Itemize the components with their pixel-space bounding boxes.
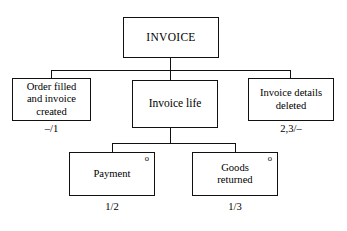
caption-invoice-deleted: 2,3/– — [248, 124, 334, 135]
node-invoice-life-label: Invoice life — [146, 97, 205, 111]
structure-diagram: INVOICE Order filled and invoice created… — [0, 0, 347, 231]
node-goods-returned[interactable]: o Goods returned — [192, 152, 278, 196]
node-payment-label: Payment — [90, 168, 133, 181]
node-invoice[interactable]: INVOICE — [123, 17, 219, 58]
node-goods-returned-label: Goods returned — [214, 162, 255, 187]
optional-marker-icon: o — [145, 154, 149, 163]
caption-order-filled: –/1 — [12, 124, 91, 135]
caption-goods-returned: 1/3 — [192, 202, 278, 213]
edge-level2-bus — [112, 143, 236, 144]
node-invoice-life[interactable]: Invoice life — [132, 80, 218, 128]
node-invoice-label: INVOICE — [143, 31, 198, 45]
optional-marker-icon: o — [268, 154, 272, 163]
node-invoice-deleted-label: Invoice details deleted — [257, 87, 325, 112]
node-payment[interactable]: o Payment — [69, 152, 155, 196]
node-order-filled-label: Order filled and invoice created — [24, 81, 80, 119]
node-order-filled[interactable]: Order filled and invoice created — [12, 78, 91, 121]
edge-invoice-life-stem — [170, 128, 171, 143]
caption-payment: 1/2 — [69, 202, 155, 213]
node-invoice-deleted[interactable]: Invoice details deleted — [248, 78, 334, 121]
